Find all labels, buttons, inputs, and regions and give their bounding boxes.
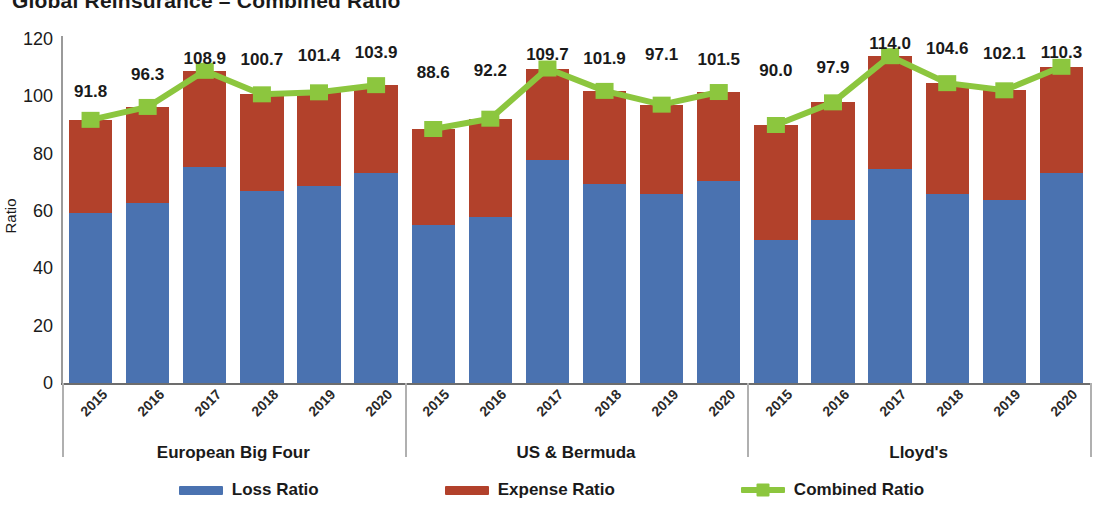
- stacked-bar[interactable]: [697, 92, 740, 383]
- y-tick-120: 120: [23, 29, 53, 50]
- bar-segment-loss-ratio[interactable]: [354, 173, 397, 383]
- bar-segment-expense-ratio[interactable]: [983, 90, 1026, 200]
- group-label-lloyd-s: Lloyd's: [889, 443, 948, 463]
- y-tick-100: 100: [23, 86, 53, 107]
- y-axis-label: Ratio: [2, 198, 19, 233]
- x-tick-lloyd-s-2019: 2019: [990, 386, 1023, 419]
- legend-line-icon: [741, 487, 785, 493]
- group-separator: [62, 383, 64, 457]
- stacked-bar[interactable]: [754, 125, 797, 383]
- bar-segment-expense-ratio[interactable]: [126, 107, 169, 203]
- bar-segment-loss-ratio[interactable]: [697, 181, 740, 383]
- data-label: 103.9: [355, 43, 398, 63]
- group-label-european-big-four: European Big Four: [157, 443, 310, 463]
- bar-segment-loss-ratio[interactable]: [526, 160, 569, 383]
- bar-segment-expense-ratio[interactable]: [354, 85, 397, 173]
- stacked-bar[interactable]: [1040, 67, 1083, 383]
- bar-segment-loss-ratio[interactable]: [868, 169, 911, 383]
- data-label: 92.2: [474, 61, 507, 81]
- stacked-bar[interactable]: [412, 129, 455, 383]
- bar-segment-loss-ratio[interactable]: [412, 225, 455, 383]
- stacked-bar[interactable]: [583, 91, 626, 383]
- stacked-bar[interactable]: [640, 105, 683, 383]
- y-tick-60: 60: [33, 201, 53, 222]
- data-label: 104.6: [926, 39, 969, 59]
- bar-segment-loss-ratio[interactable]: [297, 186, 340, 383]
- bar-segment-expense-ratio[interactable]: [412, 129, 455, 225]
- bar-segment-loss-ratio[interactable]: [640, 194, 683, 383]
- bar-segment-expense-ratio[interactable]: [754, 125, 797, 240]
- stacked-bar[interactable]: [811, 102, 854, 383]
- x-tick-european-big-four-2016: 2016: [134, 386, 167, 419]
- bar-segment-loss-ratio[interactable]: [1040, 173, 1083, 383]
- x-tick-lloyd-s-2017: 2017: [876, 386, 909, 419]
- bar-segment-loss-ratio[interactable]: [811, 220, 854, 383]
- bar-segment-loss-ratio[interactable]: [469, 217, 512, 383]
- x-tick-us-bermuda-2016: 2016: [476, 386, 509, 419]
- data-label: 108.9: [183, 49, 226, 69]
- x-tick-lloyd-s-2018: 2018: [933, 386, 966, 419]
- bar-segment-loss-ratio[interactable]: [983, 200, 1026, 383]
- stacked-bar[interactable]: [526, 69, 569, 383]
- x-tick-european-big-four-2018: 2018: [248, 386, 281, 419]
- legend-item-combined-ratio[interactable]: Combined Ratio: [741, 480, 924, 500]
- bar-segment-expense-ratio[interactable]: [183, 71, 226, 167]
- stacked-bar[interactable]: [240, 94, 283, 383]
- bar-segment-expense-ratio[interactable]: [926, 83, 969, 193]
- x-tick-us-bermuda-2017: 2017: [533, 386, 566, 419]
- x-tick-european-big-four-2020: 2020: [362, 386, 395, 419]
- y-tick-0: 0: [43, 373, 53, 394]
- stacked-bar[interactable]: [126, 107, 169, 383]
- bar-segment-expense-ratio[interactable]: [697, 92, 740, 181]
- data-label: 91.8: [74, 82, 107, 102]
- group-separator: [405, 383, 407, 457]
- bar-segment-expense-ratio[interactable]: [811, 102, 854, 220]
- bar-segment-loss-ratio[interactable]: [754, 240, 797, 383]
- stacked-bar[interactable]: [297, 92, 340, 383]
- stacked-bar[interactable]: [69, 120, 112, 383]
- bar-segment-expense-ratio[interactable]: [469, 119, 512, 218]
- bar-segment-expense-ratio[interactable]: [1040, 67, 1083, 173]
- legend-item-expense-ratio[interactable]: Expense Ratio: [445, 480, 615, 500]
- bar-segment-loss-ratio[interactable]: [183, 167, 226, 383]
- bar-segment-expense-ratio[interactable]: [297, 92, 340, 185]
- stacked-bar[interactable]: [983, 90, 1026, 383]
- data-label: 96.3: [131, 65, 164, 85]
- data-label: 109.7: [526, 45, 569, 65]
- bar-segment-loss-ratio[interactable]: [126, 203, 169, 383]
- plot-area: 020406080100120 91.896.3108.9100.7101.41…: [62, 39, 1090, 383]
- bar-segment-expense-ratio[interactable]: [240, 94, 283, 191]
- x-tick-lloyd-s-2020: 2020: [1047, 386, 1080, 419]
- bar-segment-expense-ratio[interactable]: [69, 120, 112, 213]
- bar-segment-expense-ratio[interactable]: [583, 91, 626, 184]
- chart-legend: Loss RatioExpense RatioCombined Ratio: [0, 479, 1103, 501]
- group-separator: [1090, 383, 1092, 457]
- bar-segment-expense-ratio[interactable]: [526, 69, 569, 161]
- x-tick-us-bermuda-2015: 2015: [419, 386, 452, 419]
- group-label-us-bermuda: US & Bermuda: [516, 443, 635, 463]
- data-label: 100.7: [241, 50, 284, 70]
- bar-segment-loss-ratio[interactable]: [240, 191, 283, 383]
- data-label: 114.0: [869, 34, 911, 54]
- chart-title: Global Reinsurance – Combined Ratio: [12, 0, 401, 13]
- bar-segment-expense-ratio[interactable]: [640, 105, 683, 195]
- stacked-bar[interactable]: [926, 83, 969, 383]
- bar-segment-expense-ratio[interactable]: [868, 56, 911, 169]
- stacked-bar[interactable]: [183, 71, 226, 383]
- legend-color-icon: [179, 486, 223, 495]
- data-label: 88.6: [417, 63, 450, 83]
- legend-item-loss-ratio[interactable]: Loss Ratio: [179, 480, 319, 500]
- stacked-bar[interactable]: [868, 56, 911, 383]
- stacked-bar[interactable]: [469, 119, 512, 383]
- stacked-bar[interactable]: [354, 85, 397, 383]
- y-tick-80: 80: [33, 143, 53, 164]
- x-tick-us-bermuda-2018: 2018: [591, 386, 624, 419]
- bar-segment-loss-ratio[interactable]: [583, 184, 626, 383]
- y-tick-20: 20: [33, 315, 53, 336]
- bar-segment-loss-ratio[interactable]: [926, 194, 969, 383]
- x-tick-us-bermuda-2020: 2020: [705, 386, 738, 419]
- legend-label: Expense Ratio: [498, 480, 615, 500]
- bar-segment-loss-ratio[interactable]: [69, 213, 112, 383]
- legend-label: Loss Ratio: [232, 480, 319, 500]
- legend-color-icon: [445, 486, 489, 495]
